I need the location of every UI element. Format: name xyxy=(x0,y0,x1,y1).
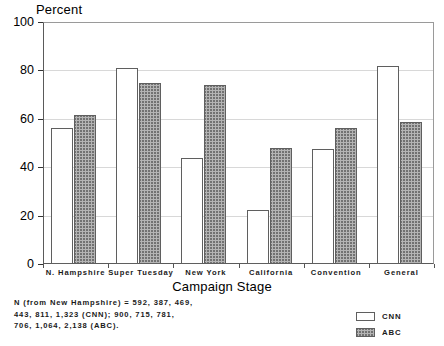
legend-label: ABC xyxy=(382,328,402,337)
x-tick-label-n-hampshire: N. Hampshire xyxy=(43,268,108,277)
x-axis-title: Campaign Stage xyxy=(0,279,444,294)
footnote-line-3: 706, 1,064, 2,138 (ABC). xyxy=(14,320,193,332)
x-tick-mark xyxy=(43,264,44,268)
legend-item-abc: ABC xyxy=(356,326,402,339)
bar-cnn-super-tuesday xyxy=(116,68,138,264)
bar-cnn-new-york xyxy=(181,158,203,264)
chart-legend: CNNABC xyxy=(356,310,402,342)
x-tick-label-california: California xyxy=(239,268,304,277)
x-tick-label-super-tuesday: Super Tuesday xyxy=(108,268,173,277)
bar-abc-super-tuesday xyxy=(139,83,161,265)
y-tick-label: 80 xyxy=(0,64,34,76)
bar-abc-california xyxy=(270,148,292,264)
y-tick-label: 60 xyxy=(0,113,34,125)
x-tick-mark xyxy=(434,264,435,268)
legend-swatch-cnn-icon xyxy=(356,312,375,321)
y-tick-label: 40 xyxy=(0,161,34,173)
bar-cnn-convention xyxy=(312,149,334,264)
bar-cnn-california xyxy=(247,210,269,264)
legend-label: CNN xyxy=(382,312,402,321)
footnote-line-1: N (from New Hampshire) = 592, 387, 469, xyxy=(14,297,193,309)
x-tick-label-new-york: New York xyxy=(173,268,238,277)
bar-abc-convention xyxy=(335,128,357,264)
legend-swatch-abc-icon xyxy=(356,328,375,337)
footnote-line-2: 443, 811, 1,323 (CNN); 900, 715, 781, xyxy=(14,309,193,321)
bar-cnn-n-hampshire xyxy=(51,128,73,264)
y-tick-label: 100 xyxy=(0,16,34,28)
bars-layer xyxy=(43,22,434,264)
chart-footnote: N (from New Hampshire) = 592, 387, 469,4… xyxy=(14,297,193,332)
bar-abc-general xyxy=(400,122,422,264)
bar-abc-new-york xyxy=(204,85,226,264)
y-tick-label: 20 xyxy=(0,210,34,222)
bar-abc-n-hampshire xyxy=(74,115,96,264)
y-axis-title: Percent xyxy=(36,2,82,17)
bar-chart-figure: Percent 020406080100 N. HampshireSuper T… xyxy=(0,0,444,346)
legend-item-cnn: CNN xyxy=(356,310,402,323)
x-tick-label-general: General xyxy=(369,268,434,277)
y-tick-label: 0 xyxy=(0,258,34,270)
x-tick-label-convention: Convention xyxy=(304,268,369,277)
bar-cnn-general xyxy=(377,66,399,264)
